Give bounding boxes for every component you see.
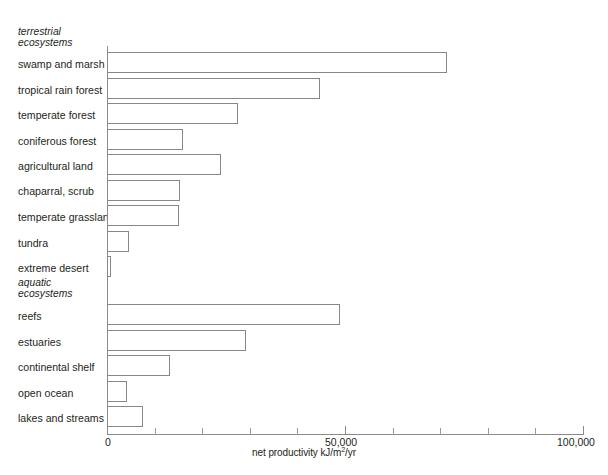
x-axis-title-before: net productivity kJ/m: [252, 447, 341, 458]
bar: [107, 381, 127, 402]
group-heading-terrestrial: terrestrial ecosystems: [18, 26, 72, 49]
plot-area: terrestrial ecosystems aquatic ecosystem…: [0, 0, 608, 475]
bar: [107, 231, 129, 252]
category-label: lakes and streams: [18, 412, 104, 424]
category-label: temperate forest: [18, 109, 95, 121]
category-label: tropical rain forest: [18, 84, 102, 96]
group-heading-terrestrial-line1: terrestrial: [18, 26, 72, 37]
category-label: continental shelf: [18, 361, 95, 373]
group-heading-aquatic-line2: ecosystems: [18, 288, 72, 299]
category-label: chaparral, scrub: [18, 185, 94, 197]
bar: [107, 129, 183, 150]
category-label: agricultural land: [18, 160, 93, 172]
x-axis-minor-tick: [440, 428, 441, 435]
category-label: estuaries: [18, 336, 61, 348]
x-axis-minor-tick: [393, 428, 394, 435]
x-axis-minor-tick: [535, 428, 536, 435]
category-label: reefs: [18, 310, 42, 322]
x-axis-minor-tick: [202, 428, 203, 435]
x-axis-minor-tick: [488, 428, 489, 435]
bar: [107, 52, 447, 73]
bar: [107, 355, 170, 376]
bar: [107, 154, 221, 175]
y-axis-line: [107, 46, 108, 435]
bar: [107, 304, 340, 325]
bar: [107, 180, 180, 201]
group-heading-terrestrial-line2: ecosystems: [18, 37, 72, 48]
group-heading-aquatic: aquatic ecosystems: [18, 277, 72, 300]
bar: [107, 78, 320, 99]
x-axis-minor-tick: [155, 428, 156, 435]
group-heading-aquatic-line1: aquatic: [18, 277, 72, 288]
x-axis-major-tick: [345, 426, 346, 435]
net-productivity-bar-chart: terrestrial ecosystems aquatic ecosystem…: [0, 0, 608, 475]
category-label: open ocean: [18, 387, 73, 399]
x-axis-major-tick: [583, 426, 584, 435]
bar: [107, 103, 238, 124]
bar: [107, 406, 143, 427]
x-axis-minor-tick: [297, 428, 298, 435]
category-label: tundra: [18, 237, 48, 249]
bar: [107, 330, 246, 351]
x-axis-title: net productivity kJ/m2/yr: [0, 447, 608, 458]
category-label: swamp and marsh: [18, 58, 105, 70]
category-label: extreme desert: [18, 262, 89, 274]
x-axis-minor-tick: [250, 428, 251, 435]
x-axis-title-after: /yr: [345, 447, 356, 458]
category-label: temperate grassland: [18, 211, 115, 223]
category-label: coniferous forest: [18, 135, 96, 147]
bar: [107, 205, 179, 226]
x-axis-major-tick: [107, 426, 108, 435]
